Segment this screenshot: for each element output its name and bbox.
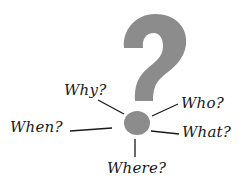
line-who: [152, 104, 178, 116]
label-why: Why?: [64, 83, 106, 98]
line-why: [98, 100, 124, 114]
label-what: What?: [182, 125, 231, 140]
question-illustration: Why? Who? When? What? Where?: [0, 0, 252, 185]
question-mark-icon: [0, 0, 252, 185]
question-mark-dot: [124, 111, 150, 135]
line-what: [151, 131, 179, 134]
label-who: Who?: [181, 96, 224, 111]
label-when: When?: [10, 120, 63, 135]
line-when: [70, 128, 112, 131]
question-mark-hook: [124, 14, 186, 101]
label-where: Where?: [107, 161, 166, 176]
